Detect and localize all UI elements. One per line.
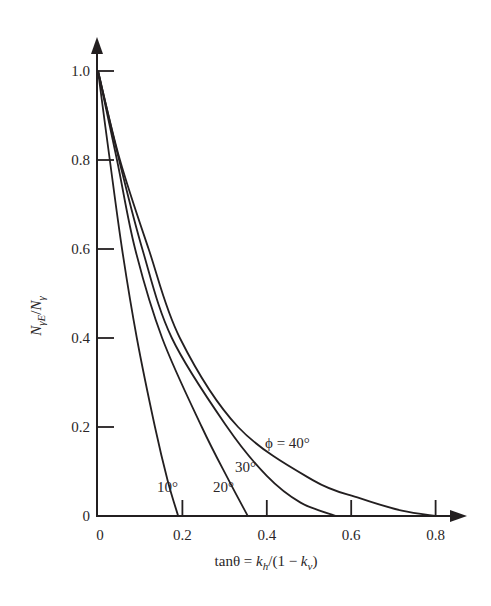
y-tick-label: 0.8 (71, 152, 90, 168)
curve-label-30: 30° (235, 459, 256, 475)
y-tick-label: 0 (83, 508, 91, 524)
y-tick-label: 0.6 (71, 241, 90, 257)
x-tick-label: 0 (96, 527, 104, 543)
y-axis-title: NγE/Nγ (28, 296, 47, 337)
y-axis (91, 37, 103, 517)
x-axis-title: tanθ = kh/(1 − kv) (215, 553, 318, 572)
x-tick-label: 0.4 (257, 527, 276, 543)
x-tick-label: 0.6 (342, 527, 361, 543)
y-tick-label: 0.2 (71, 419, 90, 435)
y-ticks: 00.20.40.60.81.0 (71, 63, 114, 524)
x-ticks: 00.20.40.60.8 (96, 500, 445, 543)
x-tick-label: 0.2 (173, 527, 192, 543)
curve-label-20: 20° (213, 479, 234, 495)
curve-label-40: ϕ = 40° (265, 435, 310, 451)
y-tick-label: 0.4 (71, 330, 90, 346)
chart-canvas: 00.20.40.60.81.0 00.20.40.60.8 10° 20° 3… (0, 0, 491, 606)
curve-label-10: 10° (157, 479, 178, 495)
x-tick-label: 0.8 (426, 527, 445, 543)
curve-20deg (98, 71, 248, 516)
x-axis-arrow-icon (450, 510, 467, 522)
y-tick-label: 1.0 (71, 63, 90, 79)
y-axis-arrow-icon (91, 37, 103, 54)
curve-10deg (98, 71, 178, 516)
